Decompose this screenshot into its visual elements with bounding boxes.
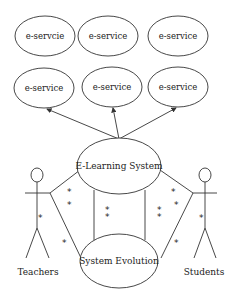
students-actor: Students <box>184 168 225 277</box>
mid-service-1-label: e-service <box>25 83 64 93</box>
multiplicity-star: * <box>171 187 176 197</box>
mid-service-3: e-service <box>148 67 208 107</box>
teachers-head-icon <box>31 168 43 182</box>
multiplicity-star: * <box>67 200 72 210</box>
top-service-2-label: e-service <box>89 31 128 41</box>
top-service-3-label: e-service <box>159 31 198 41</box>
teachers-label: Teachers <box>17 267 58 277</box>
students-to-elearning-line <box>160 170 193 193</box>
multiplicity-star: * <box>67 187 72 197</box>
system-evolution-label: System Evolution <box>79 256 159 266</box>
elearning-system-label: E-Learning System <box>75 161 163 171</box>
use-case-diagram: e-servcie e-service e-service e-service … <box>0 0 234 301</box>
arrow-to-service-3 <box>119 108 176 139</box>
teachers-to-elearning-line <box>50 170 80 193</box>
top-service-1: e-servcie <box>15 16 75 56</box>
arrow-to-service-1 <box>47 109 119 139</box>
top-service-3: e-service <box>148 16 208 56</box>
top-service-2: e-service <box>78 16 138 56</box>
arrow-to-service-2 <box>113 108 119 139</box>
multiplicity-star: * <box>174 200 179 210</box>
mid-service-2: e-service <box>82 67 142 107</box>
students-head-icon <box>199 168 211 182</box>
top-service-1-label: e-servcie <box>26 31 65 41</box>
multiplicity-star: * <box>174 238 179 248</box>
multiplicity-star: * <box>38 213 43 223</box>
multiplicity-star: * <box>105 212 110 222</box>
system-evolution-usecase: System Evolution <box>79 234 159 288</box>
mid-service-1: e-service <box>14 68 74 108</box>
multiplicity-star: * <box>157 212 162 222</box>
mid-service-3-label: e-service <box>159 82 198 92</box>
teachers-to-evolution-line <box>50 193 81 258</box>
mid-service-2-label: e-service <box>93 82 132 92</box>
students-label: Students <box>184 267 225 277</box>
elearning-system-usecase: E-Learning System <box>75 138 163 194</box>
multiplicity-star: * <box>62 238 67 248</box>
multiplicity-star: * <box>199 213 204 223</box>
